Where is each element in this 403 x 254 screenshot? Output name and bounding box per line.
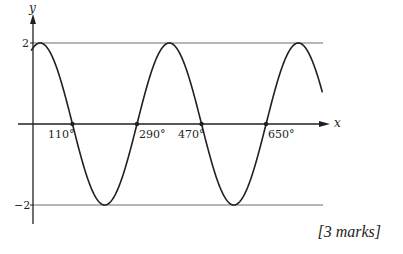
x-axis-arrow-icon <box>319 121 330 127</box>
x-intercept-label-290: 290° <box>139 129 166 140</box>
intercept-dot <box>135 122 139 126</box>
y-tick-label-2: 2 <box>22 38 29 49</box>
x-axis-label: x <box>334 117 341 129</box>
y-tick-label-neg2: −2 <box>14 200 30 211</box>
sine-graph <box>0 0 403 254</box>
y-axis-label: y <box>29 2 36 14</box>
marks-label: [3 marks] <box>317 223 381 241</box>
x-intercept-label-650: 650° <box>268 129 295 140</box>
intercept-dot <box>199 122 203 126</box>
x-intercept-label-470: 470° <box>178 129 205 140</box>
intercept-dot <box>264 122 268 126</box>
intercept-dot <box>70 122 74 126</box>
x-intercept-label-110: 110° <box>48 129 75 140</box>
y-axis-arrow-icon <box>30 14 36 24</box>
